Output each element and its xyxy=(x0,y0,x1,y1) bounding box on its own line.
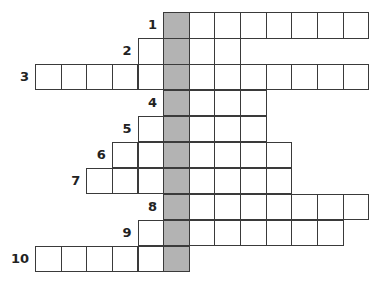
letter-cell[interactable] xyxy=(317,220,344,247)
letter-cell[interactable] xyxy=(86,168,113,195)
letter-cell[interactable] xyxy=(266,168,293,195)
letter-cell[interactable] xyxy=(240,168,267,195)
letter-cell[interactable] xyxy=(266,64,293,91)
letter-cell[interactable] xyxy=(189,64,216,91)
letter-cell[interactable] xyxy=(138,168,165,195)
letter-cell[interactable] xyxy=(240,90,267,117)
letter-cell[interactable] xyxy=(240,194,267,221)
letter-cell[interactable] xyxy=(317,194,344,221)
key-letter-cell[interactable] xyxy=(163,12,190,39)
letter-cell[interactable] xyxy=(317,64,344,91)
key-letter-cell[interactable] xyxy=(163,64,190,91)
letter-cell[interactable] xyxy=(291,12,318,39)
letter-cell[interactable] xyxy=(138,246,165,273)
clue-number-4: 4 xyxy=(137,96,157,110)
letter-cell[interactable] xyxy=(240,116,267,143)
key-letter-cell[interactable] xyxy=(163,246,190,273)
letter-cell[interactable] xyxy=(266,12,293,39)
letter-cell[interactable] xyxy=(189,12,216,39)
clue-number-8: 8 xyxy=(137,200,157,214)
letter-cell[interactable] xyxy=(240,64,267,91)
letter-cell[interactable] xyxy=(112,64,139,91)
letter-cell[interactable] xyxy=(266,194,293,221)
letter-cell[interactable] xyxy=(291,220,318,247)
crossword-grid: 12345678910 xyxy=(0,0,377,288)
letter-cell[interactable] xyxy=(291,194,318,221)
letter-cell[interactable] xyxy=(189,194,216,221)
letter-cell[interactable] xyxy=(214,168,241,195)
clue-number-1: 1 xyxy=(137,18,157,32)
letter-cell[interactable] xyxy=(112,246,139,273)
letter-cell[interactable] xyxy=(266,142,293,169)
letter-cell[interactable] xyxy=(112,168,139,195)
letter-cell[interactable] xyxy=(343,12,370,39)
key-letter-cell[interactable] xyxy=(163,38,190,65)
letter-cell[interactable] xyxy=(189,116,216,143)
letter-cell[interactable] xyxy=(61,64,88,91)
letter-cell[interactable] xyxy=(343,64,370,91)
letter-cell[interactable] xyxy=(266,220,293,247)
letter-cell[interactable] xyxy=(189,38,216,65)
key-letter-cell[interactable] xyxy=(163,220,190,247)
letter-cell[interactable] xyxy=(214,64,241,91)
letter-cell[interactable] xyxy=(189,142,216,169)
clue-number-10: 10 xyxy=(9,252,29,266)
letter-cell[interactable] xyxy=(214,194,241,221)
clue-number-2: 2 xyxy=(112,44,132,58)
letter-cell[interactable] xyxy=(291,64,318,91)
clue-number-6: 6 xyxy=(86,148,106,162)
letter-cell[interactable] xyxy=(189,90,216,117)
clue-number-9: 9 xyxy=(112,226,132,240)
letter-cell[interactable] xyxy=(317,12,344,39)
letter-cell[interactable] xyxy=(112,142,139,169)
letter-cell[interactable] xyxy=(214,220,241,247)
clue-number-7: 7 xyxy=(60,174,80,188)
letter-cell[interactable] xyxy=(240,12,267,39)
key-letter-cell[interactable] xyxy=(163,90,190,117)
letter-cell[interactable] xyxy=(343,194,370,221)
letter-cell[interactable] xyxy=(86,64,113,91)
letter-cell[interactable] xyxy=(138,116,165,143)
letter-cell[interactable] xyxy=(189,220,216,247)
letter-cell[interactable] xyxy=(138,64,165,91)
clue-number-5: 5 xyxy=(112,122,132,136)
letter-cell[interactable] xyxy=(214,38,241,65)
letter-cell[interactable] xyxy=(61,246,88,273)
letter-cell[interactable] xyxy=(35,246,62,273)
key-letter-cell[interactable] xyxy=(163,116,190,143)
key-letter-cell[interactable] xyxy=(163,142,190,169)
letter-cell[interactable] xyxy=(214,12,241,39)
letter-cell[interactable] xyxy=(214,142,241,169)
letter-cell[interactable] xyxy=(214,116,241,143)
clue-number-3: 3 xyxy=(9,70,29,84)
key-letter-cell[interactable] xyxy=(163,194,190,221)
letter-cell[interactable] xyxy=(189,168,216,195)
letter-cell[interactable] xyxy=(240,142,267,169)
letter-cell[interactable] xyxy=(138,220,165,247)
letter-cell[interactable] xyxy=(214,90,241,117)
letter-cell[interactable] xyxy=(138,142,165,169)
letter-cell[interactable] xyxy=(240,220,267,247)
letter-cell[interactable] xyxy=(35,64,62,91)
letter-cell[interactable] xyxy=(138,38,165,65)
letter-cell[interactable] xyxy=(86,246,113,273)
key-letter-cell[interactable] xyxy=(163,168,190,195)
